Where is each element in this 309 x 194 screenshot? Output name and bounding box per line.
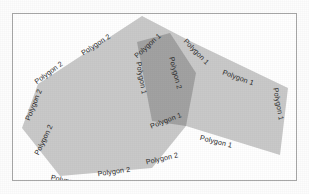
figure-container: Polygon 2Polygon 2Polygon 2Polygon 2Poly… (0, 0, 309, 194)
plot-frame (12, 13, 297, 181)
